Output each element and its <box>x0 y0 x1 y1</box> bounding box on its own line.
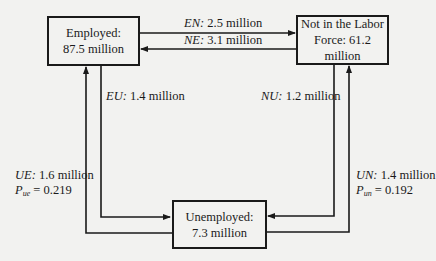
arrow-nu <box>268 64 334 216</box>
nilf-value: Force: 61.2 million <box>298 32 387 64</box>
flow-label-ne: NE: 3.1 million <box>184 33 262 48</box>
employed-value: 87.5 million <box>63 41 124 57</box>
transition-probability-ue: Pue = 0.219 <box>15 183 94 201</box>
state-box-not-in-labor-force: Not in the Labor Force: 61.2 million <box>296 15 389 65</box>
flow-label-nu: NU: 1.2 million <box>261 89 341 104</box>
nilf-label: Not in the Labor <box>301 16 384 32</box>
flow-label-ue: UE: 1.6 million Pue = 0.219 <box>15 168 94 201</box>
flow-label-en: EN: 2.5 million <box>184 16 262 31</box>
unemployed-label: Unemployed: <box>185 209 253 225</box>
unemployed-value: 7.3 million <box>192 225 247 241</box>
state-box-unemployed: Unemployed: 7.3 million <box>172 200 267 249</box>
arrow-eu <box>101 65 170 217</box>
flow-label-un: UN: 1.4 million Pun = 0.192 <box>356 168 436 201</box>
transition-probability-un: Pun = 0.192 <box>356 183 436 201</box>
flow-label-eu: EU: 1.4 million <box>106 89 185 104</box>
employed-label: Employed: <box>66 25 121 41</box>
state-box-employed: Employed: 87.5 million <box>47 16 140 66</box>
